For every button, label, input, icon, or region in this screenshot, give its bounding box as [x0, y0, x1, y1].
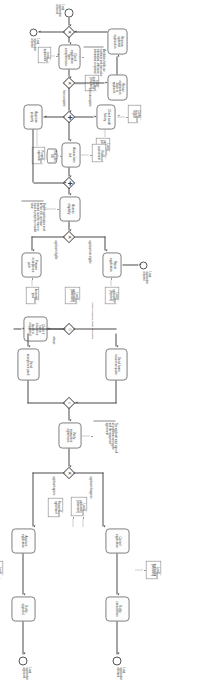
annotation-mandatory-fields: Mandatory fields are customer and loan v…: [83, 46, 103, 76]
data-object-repayment-agreement[interactable]: Repayment agreement: [47, 497, 63, 517]
data-object-loan-application-rejected[interactable]: Loan application [rejected]: [104, 286, 119, 304]
task-prepare-acceptance-pack[interactable]: Prepare acceptance pack: [21, 252, 41, 277]
arrow-reject-to-end: [139, 263, 141, 265]
arrow-creditreport: [117, 114, 119, 116]
arrow-assessrisk-to-join: [69, 175, 71, 177]
task-return-application-back-to-applicant[interactable]: Return application back to applicant: [107, 74, 127, 100]
dataflow-assessed-to-cancel: [82, 516, 83, 526]
flow-xor-to-prepare-v: [32, 236, 65, 237]
flow-xor-to-sendquote-h: [115, 333, 116, 346]
data-object-acceptance-pack[interactable]: Acceptance pack: [25, 286, 39, 304]
gateway-quote-marker: ◇: [65, 324, 74, 333]
annotation-link-verify: [82, 435, 92, 436]
flow-checkform-to-xor: [69, 69, 70, 76]
flow-approve-to-notify: [22, 553, 23, 594]
dataflow-rejected: [110, 277, 111, 285]
arrow-approve-to-notify: [23, 593, 25, 595]
data-object-risk-assessment[interactable]: Risk assessment: [91, 143, 106, 162]
arrow-sendquote-to-join: [75, 401, 77, 403]
task-notify-cancellation[interactable]: Notify cancellation: [105, 596, 129, 621]
arrow-cancel-to-notify: [117, 593, 119, 595]
flow-xor-to-prepare-h: [31, 236, 32, 250]
task-appraise-property[interactable]: Appraise property: [23, 104, 42, 129]
task-assess-loan-risk[interactable]: Assess loan risk: [61, 142, 80, 167]
data-object-loan-application-cancelled[interactable]: Loan application [cancelled]: [145, 560, 161, 579]
arrow-xor-to-reject: [105, 249, 107, 251]
end-event-loan-application-rejected[interactable]: [29, 28, 37, 36]
diagram-viewport: Loan application received ✕ Check applic…: [0, 0, 223, 692]
flow-cancel-to-notify: [116, 553, 117, 594]
flow-appraise-to-join-h: [32, 129, 33, 182]
dataflow-assessed-to-approve: [72, 516, 73, 526]
flow-return-to-receive: [117, 56, 118, 74]
data-object-loan-application[interactable]: Loan application: [37, 46, 51, 63]
arrow-appraise-to-join: [65, 181, 67, 183]
end-event-rejected-label: Loan application rejected: [28, 38, 37, 60]
bpmn-canvas: Loan application received ✕ Check applic…: [0, 0, 223, 692]
arrow-xor-to-sendquote: [116, 345, 118, 347]
arrow-merge-to-rejected: [38, 30, 40, 32]
task-notify-approval[interactable]: Notify approval: [11, 596, 35, 621]
flow-verifyxor-to-approve-v: [33, 472, 65, 473]
data-object-loan-application-approved[interactable]: Loan application [approved]: [0, 560, 3, 579]
data-object-credit-history-report[interactable]: Credit history report: [127, 104, 141, 123]
arrow-eligibility-to-xor: [69, 229, 71, 231]
flow-xor-to-return: [74, 82, 104, 83]
data-object-loan-application-assessed[interactable]: Loan application [assessed]: [64, 286, 80, 304]
end-event-rejected-top-label: Loan application rejected: [140, 271, 149, 292]
dataflow-loanapp-to-checkform: [51, 55, 57, 56]
dataflow-riskrules: [57, 155, 61, 156]
task-send-acceptance-pack[interactable]: Send acceptance pack: [17, 348, 39, 380]
flow-reject-to-end: [122, 264, 138, 265]
task-cancel-application[interactable]: Cancel application: [105, 528, 129, 553]
end-event-approved-label: Loan application approved: [20, 667, 29, 689]
flow-verifyxor-to-approve-h: [32, 472, 33, 526]
arrow-xor-to-prepare: [32, 249, 34, 251]
dataflow-acceptancepack: [31, 277, 32, 285]
data-object-loan-assessed-mid[interactable]: Loan application [assessed]: [70, 496, 87, 516]
data-store-risk-rules-db[interactable]: Risk rules DB: [46, 148, 57, 163]
arrow-prepare-to-checkquote: [22, 327, 24, 329]
arrow-parsplit-to-assessrisk: [69, 139, 71, 141]
end-event-loan-application-declined[interactable]: [112, 656, 121, 665]
flow-label-always: always: [50, 336, 53, 344]
arrow-start-to-merge: [69, 24, 71, 26]
task-reject-application[interactable]: Reject application: [102, 252, 121, 277]
arrow-verify-to-xor: [69, 465, 71, 467]
flow-prepare-to-checkquote-v: [13, 328, 21, 329]
task-check-credit-history[interactable]: Check credit history: [96, 104, 115, 129]
task-approve-application[interactable]: Approve application: [11, 528, 35, 553]
task-assess-eligibility[interactable]: Assess eligibility: [59, 196, 80, 221]
annotation-eligible-rule: Eligible applications must be low risk, …: [21, 200, 43, 233]
task-receive-updated-application[interactable]: Receive updated application: [107, 28, 127, 54]
task-check-application-form-completeness[interactable]: Check application form completeness: [58, 44, 80, 69]
gateway-eligibility-marker: ✕: [65, 232, 74, 241]
dataflow-riskassessment: [81, 154, 91, 155]
flow-xor-to-parsplit: [69, 87, 70, 110]
flow-parsplit-to-assessrisk: [69, 121, 70, 140]
end-event-loan-application-approved[interactable]: [18, 656, 27, 665]
flow-sendquote-to-join-v: [74, 402, 116, 403]
flow-label-applicant-disagrees: applicant disagrees: [87, 476, 90, 498]
arrow-return-to-receive: [117, 54, 119, 56]
flow-verifyxor-to-cancel-h: [102, 472, 103, 526]
arrow-join-to-verify: [69, 419, 71, 421]
arrow-xor-to-parsplit: [69, 110, 71, 112]
annotation-link-eligible: [44, 208, 58, 209]
arrow-receive-to-merge: [74, 30, 76, 32]
flow-xor-to-reject-h: [104, 236, 105, 250]
flow-merge-to-rejected: [39, 31, 65, 32]
flow-sendpack-to-join-v: [28, 402, 65, 403]
arrow-xor-to-sendpack: [28, 345, 30, 347]
flow-sendpack-to-join-h: [27, 380, 28, 403]
arrow-checkform-to-xor: [69, 76, 71, 78]
task-send-home-insurance-quote[interactable]: Send home insurance quote: [105, 348, 127, 380]
flow-notifyapprove-to-end: [22, 621, 23, 654]
flow-notifycancel-to-end: [116, 621, 117, 654]
arrow-merge-to-checkform: [69, 42, 71, 44]
start-event-loan-application-received[interactable]: [65, 8, 74, 17]
gateway-verify-marker: ✕: [65, 468, 74, 477]
dataflow-propappraisal: [36, 130, 37, 145]
flow-verify-to-xor: [69, 448, 70, 466]
task-verify-repayment-agreement[interactable]: Verify repayment agreement: [58, 422, 81, 448]
